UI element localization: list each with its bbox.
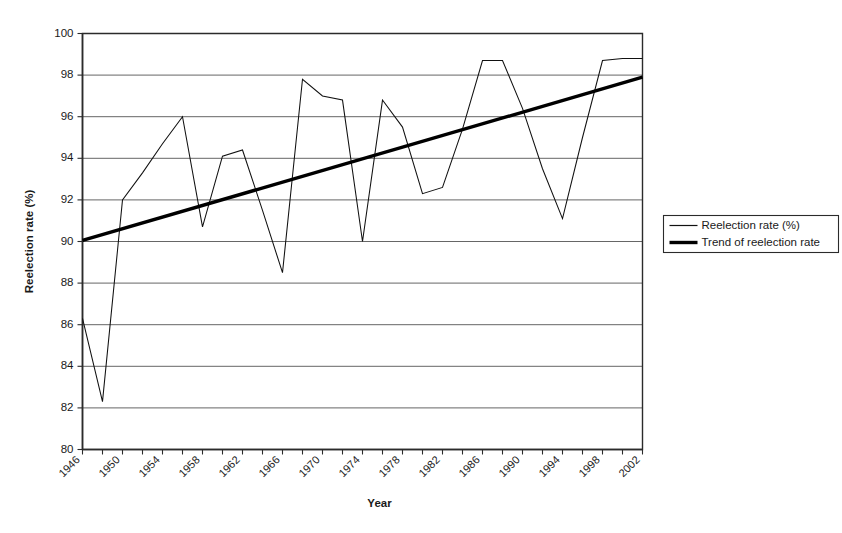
x-tick-label-2002: 2002 [616, 453, 642, 479]
data-series-group [83, 58, 643, 401]
trend-line-path [83, 77, 643, 240]
y-axis-title: Reelection rate (%) [23, 190, 35, 294]
x-tick-label-1954: 1954 [136, 453, 162, 479]
y-tick-label-92: 92 [61, 193, 74, 205]
y-tick-label-86: 86 [61, 318, 74, 330]
x-tick-label-1982: 1982 [416, 453, 442, 479]
x-tick-label-1998: 1998 [576, 453, 602, 479]
y-tick-label-82: 82 [61, 401, 74, 413]
y-tick-label-84: 84 [61, 359, 74, 371]
x-tick-label-1962: 1962 [216, 453, 242, 479]
y-axis-tick-labels: 10098969492908886848280 [54, 27, 82, 455]
x-tick-label-1946: 1946 [56, 453, 82, 479]
x-tick-label-1990: 1990 [496, 453, 522, 479]
x-tick-label-1966: 1966 [256, 453, 282, 479]
x-tick-label-1978: 1978 [376, 453, 402, 479]
chart-figure: 10098969492908886848280 1946195019541958… [0, 0, 842, 533]
x-tick-label-1950: 1950 [96, 453, 122, 479]
x-axis-tick-labels: 1946195019541958196219661970197419781982… [56, 453, 642, 479]
y-tick-label-90: 90 [61, 235, 74, 247]
y-tick-label-100: 100 [54, 27, 73, 39]
y-tick-label-94: 94 [61, 151, 74, 163]
x-axis-title: Year [367, 497, 392, 509]
y-tick-label-88: 88 [61, 276, 74, 288]
reelection-rate-line-path [83, 58, 643, 401]
y-tick-label-98: 98 [61, 68, 74, 80]
x-tick-label-1986: 1986 [456, 453, 482, 479]
x-tick-label-1974: 1974 [336, 453, 362, 479]
legend-label-1: Reelection rate (%) [702, 219, 801, 231]
x-tick-label-1958: 1958 [176, 453, 202, 479]
x-tick-label-1970: 1970 [296, 453, 322, 479]
chart-legend: Reelection rate (%)Trend of reelection r… [664, 216, 839, 253]
x-tick-label-1994: 1994 [536, 453, 562, 479]
y-tick-label-80: 80 [61, 443, 74, 455]
reelection-rate-line-chart: 10098969492908886848280 1946195019541958… [0, 0, 842, 533]
y-tick-label-96: 96 [61, 110, 74, 122]
legend-label-2: Trend of reelection rate [702, 236, 820, 248]
